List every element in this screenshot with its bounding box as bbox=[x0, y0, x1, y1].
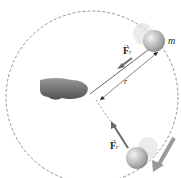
force-label-bottom: →Fr bbox=[110, 141, 118, 151]
hand-icon bbox=[40, 78, 88, 100]
velocity-arrow bbox=[158, 138, 174, 166]
string-top bbox=[90, 50, 148, 94]
radius-label: r bbox=[124, 78, 127, 86]
ball-bottom bbox=[126, 147, 148, 169]
mass-label: m bbox=[168, 36, 175, 46]
diagram-canvas bbox=[0, 0, 181, 178]
ball-top bbox=[143, 30, 165, 52]
force-label-top: →Fr bbox=[123, 46, 131, 56]
